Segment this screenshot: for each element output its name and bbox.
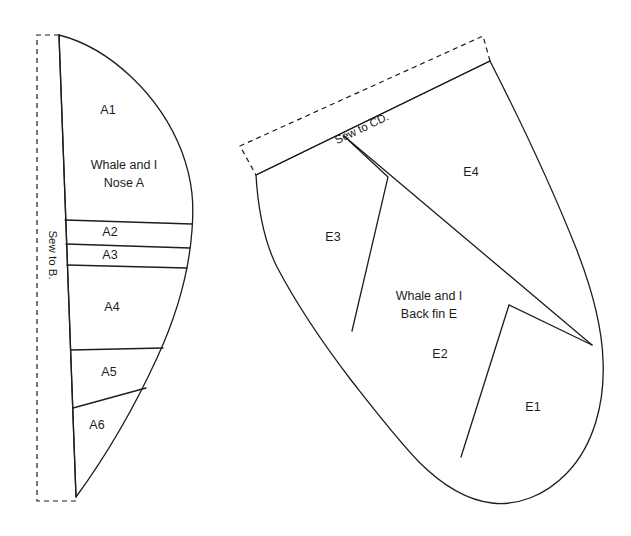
panel-label-e4: E4	[463, 165, 478, 179]
divider-a2-a3	[66, 244, 190, 248]
piece-title-nose-a-line1: Whale and I	[91, 158, 158, 172]
pattern-drawing-canvas: Sew to B. A1 A2 A3 A4 A5 A6 Whale and I …	[0, 0, 631, 536]
panel-label-e3: E3	[325, 230, 340, 244]
panel-label-e2: E2	[432, 347, 447, 361]
divider-a3-a4	[67, 265, 187, 268]
pattern-piece-back-fin-e: Sew to CD. E4 E3 E2 E1 Whale and I Back …	[240, 36, 603, 504]
seam-label-sew-to-b: Sew to B.	[47, 230, 59, 279]
piece-title-back-fin-e-line1: Whale and I	[396, 289, 463, 303]
panel-label-a4: A4	[104, 300, 119, 314]
panel-label-a6: A6	[89, 418, 104, 432]
pattern-sheet: Sew to B. A1 A2 A3 A4 A5 A6 Whale and I …	[0, 0, 631, 536]
pattern-piece-nose-a: Sew to B. A1 A2 A3 A4 A5 A6 Whale and I …	[37, 35, 193, 501]
panel-label-e1: E1	[525, 400, 540, 414]
divider-e3-e2	[344, 136, 388, 331]
seam-label-sew-to-cd: Sew to CD.	[333, 110, 391, 146]
piece-e-outline	[256, 61, 603, 504]
divider-a5-a6	[73, 388, 146, 408]
piece-title-back-fin-e-line2: Back fin E	[401, 307, 457, 321]
panel-label-a1: A1	[100, 103, 115, 117]
divider-a4-a5	[71, 348, 163, 350]
divider-a1-a2	[65, 220, 192, 224]
panel-label-a3: A3	[102, 248, 117, 262]
panel-label-a2: A2	[102, 225, 117, 239]
piece-a-left-edge	[59, 35, 76, 497]
piece-title-nose-a-line2: Nose A	[104, 176, 145, 190]
panel-label-a5: A5	[101, 365, 116, 379]
